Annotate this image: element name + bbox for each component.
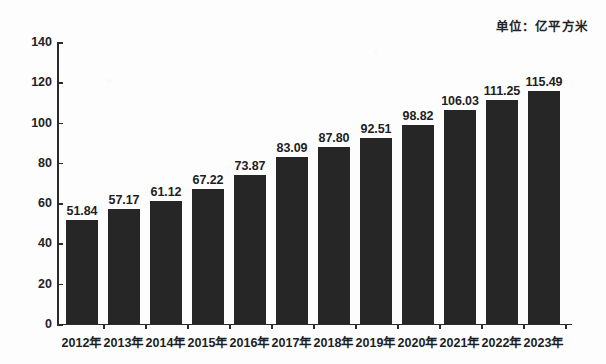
x-axis-category-label: 2012年 [58, 332, 106, 351]
bar[interactable] [66, 220, 98, 324]
x-axis-tick [565, 324, 567, 329]
x-axis-category-label: 2015年 [184, 332, 232, 351]
x-axis-category-label: 2020年 [394, 332, 442, 351]
y-axis-tick-label: 0 [45, 317, 52, 331]
x-axis-tick [145, 324, 147, 329]
bar[interactable] [150, 201, 182, 324]
x-axis-tick [523, 324, 525, 329]
bar[interactable] [192, 189, 224, 324]
x-axis-category-label: 2017年 [268, 332, 316, 351]
bar[interactable] [234, 175, 266, 324]
bar[interactable] [402, 125, 434, 324]
x-axis-category-label: 2023年 [520, 332, 568, 351]
x-axis-tick [439, 324, 441, 329]
x-axis-category-label: 2018年 [310, 332, 358, 351]
bar-value-label: 73.87 [224, 159, 276, 173]
bar[interactable] [444, 110, 476, 324]
y-axis-labels: 020406080100120140 [0, 0, 52, 364]
bar[interactable] [276, 157, 308, 324]
x-axis-tick [481, 324, 483, 329]
x-axis-category-label: 2021年 [436, 332, 484, 351]
y-axis-tick-label: 140 [31, 35, 52, 49]
bar[interactable] [108, 209, 140, 324]
y-axis-tick-label: 80 [38, 156, 52, 170]
y-axis-tick-label: 40 [38, 236, 52, 250]
y-axis-tick-label: 60 [38, 196, 52, 210]
x-axis-tick [103, 324, 105, 329]
x-axis-tick [313, 324, 315, 329]
y-axis-tick-label: 100 [31, 116, 52, 130]
x-axis-tick [355, 324, 357, 329]
unit-note: 单位：亿平方米 [496, 16, 588, 35]
bar[interactable] [486, 100, 518, 324]
x-axis-line [57, 324, 572, 326]
x-axis-tick [271, 324, 273, 329]
y-axis-line [57, 42, 59, 325]
x-axis-category-label: 2013年 [100, 332, 148, 351]
bar-value-label: 92.51 [350, 122, 402, 136]
bar[interactable] [318, 147, 350, 324]
x-axis-category-label: 2014年 [142, 332, 190, 351]
x-axis-tick [229, 324, 231, 329]
bar[interactable] [360, 138, 392, 324]
bar-value-label: 67.22 [182, 173, 234, 187]
x-axis-tick [397, 324, 399, 329]
x-axis-tick [187, 324, 189, 329]
x-axis-category-label: 2019年 [352, 332, 400, 351]
bar-value-label: 115.49 [518, 75, 570, 89]
bar-value-label: 61.12 [140, 185, 192, 199]
x-axis-category-label: 2022年 [478, 332, 526, 351]
y-axis-tick-label: 120 [31, 75, 52, 89]
bar[interactable] [528, 91, 560, 324]
y-axis-tick-label: 20 [38, 277, 52, 291]
x-axis-category-label: 2016年 [226, 332, 274, 351]
bar-value-label: 98.82 [392, 109, 444, 123]
